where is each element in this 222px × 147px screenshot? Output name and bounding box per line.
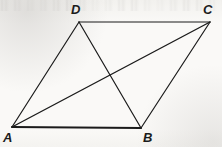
- geometry-figure: A B C D: [0, 0, 222, 147]
- vertex-label-D: D: [71, 3, 80, 16]
- vertex-label-C: C: [203, 3, 212, 16]
- parallelogram-drawing: [0, 0, 222, 147]
- edge-AB: [12, 127, 141, 128]
- vertex-label-B: B: [143, 131, 152, 144]
- vertex-label-A: A: [3, 131, 12, 144]
- diagonal-AC: [12, 22, 210, 127]
- edge-BC: [141, 22, 210, 128]
- edge-DA: [12, 22, 79, 127]
